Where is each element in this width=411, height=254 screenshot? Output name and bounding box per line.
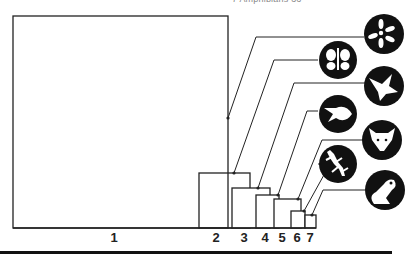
label-7: 7 bbox=[306, 230, 313, 245]
lizard-icon bbox=[319, 145, 357, 183]
flower-icon bbox=[364, 14, 404, 54]
label-3: 3 bbox=[240, 230, 247, 245]
bird-icon bbox=[364, 66, 404, 106]
label-4: 4 bbox=[261, 230, 268, 245]
butterfly-icon bbox=[319, 41, 357, 79]
label-5: 5 bbox=[278, 230, 285, 245]
species-diagram bbox=[0, 0, 411, 254]
frog-icon bbox=[365, 170, 405, 210]
box-1 bbox=[13, 16, 228, 228]
fish-icon bbox=[319, 95, 357, 133]
box-6 bbox=[291, 211, 305, 228]
mouse-icon bbox=[362, 120, 402, 160]
label-6: 6 bbox=[293, 230, 300, 245]
label-1: 1 bbox=[110, 230, 117, 245]
box-7 bbox=[305, 215, 316, 228]
label-2: 2 bbox=[212, 230, 219, 245]
